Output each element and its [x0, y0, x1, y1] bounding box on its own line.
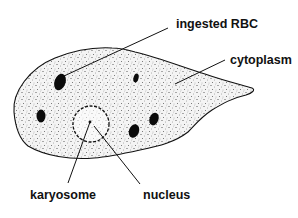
nucleus-shape — [73, 106, 109, 142]
cytoplasm-label: cytoplasm — [230, 53, 292, 67]
karyosome-label: karyosome — [30, 188, 96, 202]
ingested-rbc-label: ingested RBC — [176, 17, 258, 31]
nucleus-label: nucleus — [143, 188, 190, 202]
cell-outline — [14, 48, 254, 159]
amoeba-diagram: ingested RBC cytoplasm karyosome nucleus — [0, 0, 298, 218]
